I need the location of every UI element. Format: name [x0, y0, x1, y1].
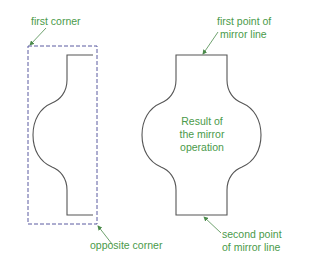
label-result-line1: Result of	[170, 115, 234, 128]
label-first-point-line1: first point of	[217, 15, 271, 28]
label-second-point-line1: second point	[222, 228, 282, 241]
arrow-first-point	[203, 32, 218, 54]
selection-window	[28, 46, 97, 224]
source-half-profile	[33, 55, 93, 215]
arrow-second-point	[204, 217, 221, 233]
label-result-line3: operation	[170, 141, 234, 154]
label-first-corner: first corner	[31, 15, 81, 28]
label-result: Result of the mirror operation	[170, 115, 234, 154]
arrow-first-corner	[30, 28, 46, 45]
label-second-point-line2: of mirror line	[222, 241, 280, 254]
label-first-point-line2: mirror line	[220, 28, 267, 41]
label-opposite-corner: opposite corner	[90, 239, 162, 252]
label-result-line2: the mirror	[170, 128, 234, 141]
